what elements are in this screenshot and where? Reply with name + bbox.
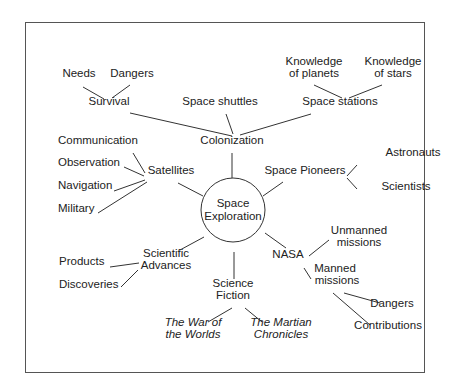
center-label-line1: Space [217, 197, 250, 209]
node-astronauts: Astronauts [386, 146, 441, 158]
node-dangers-manned: Dangers [370, 297, 413, 309]
node-nasa: NASA [272, 248, 303, 260]
node-space-pioneers: Space Pioneers [264, 164, 345, 176]
node-knowledge-stars-1: Knowledge [365, 55, 422, 67]
node-space-stations: Space stations [302, 95, 377, 107]
node-sci-adv-1: Scientific [143, 247, 189, 259]
node-knowledge-planets-2: of planets [289, 67, 339, 79]
node-contributions: Contributions [354, 319, 422, 331]
node-survival: Survival [89, 95, 130, 107]
node-navigation: Navigation [58, 179, 112, 191]
node-martian-1: The Martian [250, 316, 311, 328]
node-war-worlds-1: The War of [165, 316, 222, 328]
node-sci-adv-2: Advances [141, 259, 192, 271]
node-unmanned-2: missions [337, 236, 382, 248]
node-space-shuttles: Space shuttles [182, 95, 257, 107]
node-war-worlds-2: the Worlds [166, 328, 221, 340]
node-manned-1: Manned [314, 262, 356, 274]
node-manned-2: missions [315, 274, 360, 286]
node-sci-fic-2: Fiction [216, 289, 250, 301]
node-scientists: Scientists [381, 180, 430, 192]
node-communication: Communication [58, 134, 138, 146]
node-knowledge-stars-2: of stars [374, 67, 412, 79]
node-colonization: Colonization [200, 134, 263, 146]
node-military: Military [58, 202, 94, 214]
node-dangers-survival: Dangers [110, 67, 153, 79]
node-observation: Observation [58, 156, 120, 168]
node-needs: Needs [62, 67, 95, 79]
node-unmanned-1: Unmanned [331, 224, 387, 236]
node-martian-2: Chronicles [254, 328, 308, 340]
center-label-line2: Exploration [204, 210, 262, 222]
node-satellites: Satellites [148, 164, 195, 176]
node-sci-fic-1: Science [213, 277, 254, 289]
node-knowledge-planets-1: Knowledge [286, 55, 343, 67]
node-discoveries: Discoveries [59, 278, 118, 290]
node-products: Products [59, 255, 104, 267]
